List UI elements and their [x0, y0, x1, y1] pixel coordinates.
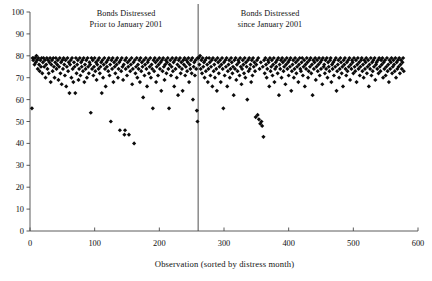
x-tick-label: 400	[282, 239, 295, 248]
data-point	[398, 71, 402, 75]
data-point	[267, 84, 271, 88]
data-point	[212, 62, 216, 66]
data-point	[175, 76, 179, 80]
data-point	[142, 73, 146, 77]
data-point	[276, 71, 280, 75]
annotation-bonds-distressed-prior: Bonds Distressed Prior to January 2001	[62, 9, 190, 30]
data-point	[61, 67, 65, 71]
data-point	[93, 69, 97, 73]
data-point	[215, 89, 219, 93]
data-point	[151, 106, 155, 110]
data-point	[237, 73, 241, 77]
data-point	[144, 67, 148, 71]
data-point	[242, 71, 246, 75]
data-point	[278, 62, 282, 66]
data-point	[190, 71, 194, 75]
y-tick-label: 10	[16, 205, 24, 214]
data-point	[109, 119, 113, 123]
data-point	[354, 80, 358, 84]
data-point	[261, 135, 265, 139]
data-point	[89, 111, 93, 115]
data-point	[166, 67, 170, 71]
data-point	[303, 84, 307, 88]
data-point	[133, 71, 137, 75]
data-point	[323, 71, 327, 75]
data-point	[329, 80, 333, 84]
data-point	[185, 69, 189, 73]
data-point	[101, 76, 105, 80]
x-tick-label: 500	[347, 239, 360, 248]
data-point	[219, 80, 223, 84]
y-tick-label: 60	[16, 96, 24, 105]
data-point	[43, 76, 47, 80]
data-point	[30, 106, 34, 110]
data-point	[301, 73, 305, 77]
data-point	[257, 67, 261, 71]
y-tick-label: 100	[11, 8, 24, 17]
x-axis-title: Observation (sorted by distress month)	[30, 259, 419, 269]
data-point	[263, 71, 267, 75]
annotation-bonds-distressed-since: Bonds Distressed since January 2001	[206, 9, 334, 30]
data-point	[245, 65, 249, 69]
y-tick-label: 20	[16, 183, 24, 192]
data-point	[394, 76, 398, 80]
data-point	[217, 71, 221, 75]
data-point	[221, 106, 225, 110]
data-point	[348, 78, 352, 82]
data-point	[91, 73, 95, 77]
data-point	[169, 73, 173, 77]
data-point	[45, 67, 49, 71]
data-point	[327, 69, 331, 73]
data-point	[145, 84, 149, 88]
data-point	[116, 76, 120, 80]
data-point	[123, 128, 127, 132]
data-point	[106, 69, 110, 73]
data-point	[272, 80, 276, 84]
data-point	[113, 71, 117, 75]
data-point	[71, 80, 75, 84]
data-point	[72, 60, 76, 64]
data-point	[337, 76, 341, 80]
data-point	[49, 80, 53, 84]
data-point	[306, 76, 310, 80]
data-point	[206, 80, 210, 84]
x-axis: 0100200300400500600	[28, 228, 424, 249]
data-point	[69, 76, 73, 80]
data-point	[243, 76, 247, 80]
data-point	[213, 76, 217, 80]
data-point	[149, 76, 153, 80]
data-point	[281, 69, 285, 73]
data-point	[147, 71, 151, 75]
x-tick-label: 100	[88, 239, 101, 248]
data-point	[107, 73, 111, 77]
data-point	[367, 84, 371, 88]
scatter-chart-figure: 0102030405060708090100 01002003004005006…	[0, 0, 432, 281]
data-point	[268, 69, 272, 73]
data-point	[221, 67, 225, 71]
x-tick-label: 0	[28, 239, 32, 248]
data-point	[208, 73, 212, 77]
data-point	[121, 78, 125, 82]
y-tick-label: 70	[16, 74, 24, 83]
data-point	[83, 62, 87, 66]
y-tick-label: 50	[16, 118, 24, 127]
y-axis: 0102030405060708090100	[11, 8, 30, 236]
data-point	[265, 76, 269, 80]
data-point	[176, 93, 180, 97]
data-point	[248, 62, 252, 66]
data-point	[187, 80, 191, 84]
data-point	[369, 73, 373, 77]
data-point	[47, 71, 51, 75]
data-point	[74, 71, 78, 75]
data-point	[104, 84, 108, 88]
data-point	[85, 76, 89, 80]
data-point	[172, 84, 176, 88]
data-point	[210, 84, 214, 88]
data-point	[358, 73, 362, 77]
data-point	[318, 73, 322, 77]
data-point	[294, 71, 298, 75]
data-point	[78, 73, 82, 77]
data-point	[183, 73, 187, 77]
data-point	[118, 128, 122, 132]
data-point	[203, 76, 207, 80]
